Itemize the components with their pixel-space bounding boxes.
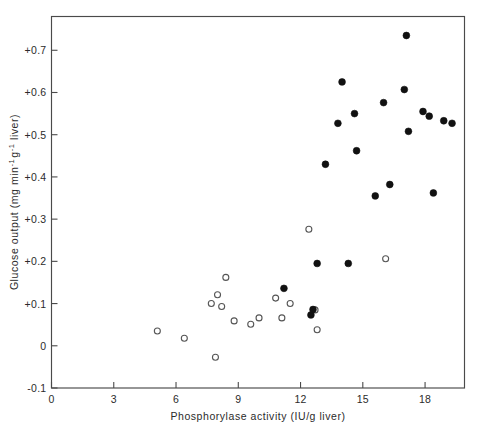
data-point-filled xyxy=(314,260,321,267)
y-tick-label: 0 xyxy=(40,340,46,352)
y-axis-ticks: -0.10+0.1+0.2+0.3+0.4+0.5+0.6+0.7 xyxy=(25,44,58,394)
y-tick-label: -0.1 xyxy=(27,382,46,394)
data-point-filled xyxy=(281,285,288,292)
data-point-filled xyxy=(449,120,456,127)
data-point-open xyxy=(181,335,187,341)
y-tick-label: +0.6 xyxy=(25,86,47,98)
data-point-filled xyxy=(403,32,410,39)
data-point-open xyxy=(383,256,389,262)
data-point-filled xyxy=(430,190,437,197)
filled-circle-markers xyxy=(281,32,456,318)
x-tick-label: 9 xyxy=(235,393,241,405)
y-tick-label: +0.7 xyxy=(25,44,47,56)
data-point-filled xyxy=(308,312,315,319)
x-axis-title: Phosphorylase activity (IU/g liver) xyxy=(170,410,345,422)
x-tick-label: 3 xyxy=(111,393,117,405)
data-point-open xyxy=(215,292,221,298)
data-point-filled xyxy=(380,99,387,106)
x-tick-label: 12 xyxy=(294,393,306,405)
x-tick-label: 0 xyxy=(48,393,54,405)
data-point-filled xyxy=(345,260,352,267)
data-point-open xyxy=(154,328,160,334)
data-point-open xyxy=(231,318,237,324)
x-tick-label: 15 xyxy=(357,393,369,405)
data-point-filled xyxy=(440,117,447,124)
x-tick-label: 6 xyxy=(173,393,179,405)
data-point-filled xyxy=(339,79,346,86)
y-tick-label: +0.2 xyxy=(25,255,47,267)
data-point-open xyxy=(212,354,218,360)
y-axis-title-lead: Glucose output (mg min xyxy=(8,167,20,291)
y-tick-label: +0.1 xyxy=(25,298,47,310)
y-tick-label: +0.4 xyxy=(25,171,47,183)
plot-canvas: 0369121518 -0.10+0.1+0.2+0.3+0.4+0.5+0.6… xyxy=(0,0,478,432)
data-point-open xyxy=(208,301,214,307)
y-tick-label: +0.3 xyxy=(25,213,47,225)
data-point-open xyxy=(256,315,262,321)
y-axis-title: Glucose output (mg min-1g-1 liver) xyxy=(7,114,20,290)
data-point-open xyxy=(223,274,229,280)
data-point-filled xyxy=(351,110,358,117)
data-point-open xyxy=(306,226,312,232)
data-point-filled xyxy=(420,108,427,115)
data-point-filled xyxy=(353,147,360,154)
data-point-filled xyxy=(401,86,408,93)
open-circle-markers xyxy=(154,226,388,360)
data-point-filled xyxy=(372,193,379,200)
data-point-open xyxy=(248,321,254,327)
data-point-filled xyxy=(335,120,342,127)
y-axis-title-superscript-1: -1 xyxy=(7,159,16,167)
svg-text:Glucose output (mg min-1g-1 li: Glucose output (mg min-1g-1 liver) xyxy=(7,114,20,290)
y-tick-label: +0.5 xyxy=(25,129,47,141)
y-axis-title-superscript-2: -1 xyxy=(7,143,16,151)
data-point-open xyxy=(279,315,285,321)
data-point-open xyxy=(287,301,293,307)
data-point-filled xyxy=(405,128,412,135)
scatter-plot-figure: 0369121518 -0.10+0.1+0.2+0.3+0.4+0.5+0.6… xyxy=(0,0,478,432)
x-axis-ticks: 0369121518 xyxy=(48,382,431,405)
data-point-open xyxy=(219,304,225,310)
data-point-filled xyxy=(426,113,433,120)
data-point-filled xyxy=(322,161,329,168)
y-axis-title-tail: liver) xyxy=(8,114,20,144)
plot-frame xyxy=(52,17,465,389)
data-point-open xyxy=(314,327,320,333)
data-point-filled xyxy=(386,181,393,188)
x-tick-label: 18 xyxy=(419,393,431,405)
data-point-open xyxy=(273,295,279,301)
